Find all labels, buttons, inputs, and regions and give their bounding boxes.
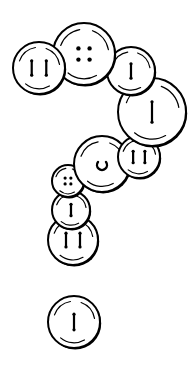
hole <box>129 62 132 65</box>
hole <box>64 177 67 180</box>
hole <box>64 182 67 185</box>
hole <box>78 232 81 235</box>
hole <box>132 150 135 153</box>
hole <box>69 214 72 217</box>
button-outline <box>13 42 65 94</box>
hole <box>87 57 91 61</box>
button-left-two-bars <box>13 42 66 96</box>
hole <box>69 182 72 185</box>
hole <box>45 59 48 62</box>
hole <box>76 57 80 61</box>
hole <box>78 245 81 248</box>
hole <box>30 74 33 77</box>
hole <box>72 313 75 316</box>
hole <box>76 46 80 50</box>
hole <box>150 121 153 124</box>
button-dot <box>48 296 101 350</box>
hole <box>69 177 72 180</box>
hole <box>69 203 72 206</box>
hole <box>45 74 48 77</box>
hole <box>30 59 33 62</box>
hole <box>64 232 67 235</box>
hole <box>87 46 91 50</box>
hole <box>132 161 135 164</box>
hole <box>150 100 153 103</box>
hole <box>143 161 146 164</box>
question-mark-buttons-illustration <box>0 0 191 369</box>
hole <box>64 245 67 248</box>
hole <box>143 150 146 153</box>
hole <box>129 77 132 80</box>
hole <box>72 328 75 331</box>
